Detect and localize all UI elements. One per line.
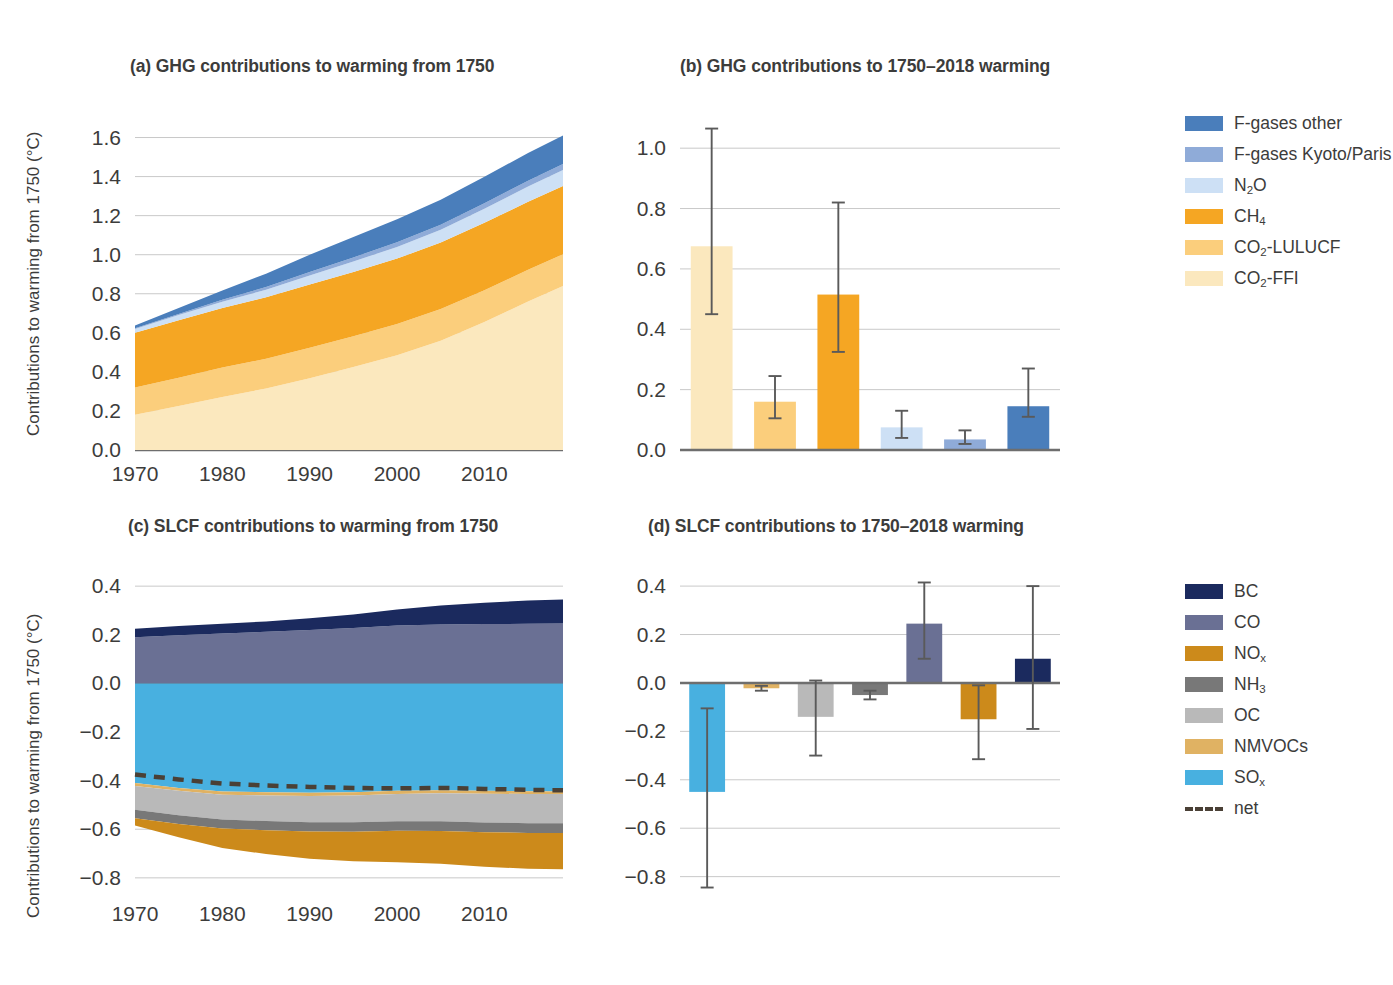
ghg-legend-label: CO2-FFI bbox=[1234, 268, 1299, 289]
panel-d-chart: 0.40.20.0−0.2−0.4−0.6−0.8 bbox=[620, 508, 1080, 978]
panel-d: (d) SLCF contributions to 1750–2018 warm… bbox=[620, 508, 1080, 978]
y-tick-label: 0.8 bbox=[92, 282, 121, 305]
x-tick-label: 1980 bbox=[199, 902, 246, 925]
y-tick-label: 0.4 bbox=[92, 574, 122, 597]
y-tick-label: 0.0 bbox=[637, 438, 666, 461]
y-tick-label: −0.2 bbox=[625, 719, 666, 742]
slcf-legend-swatch-icon bbox=[1185, 615, 1223, 630]
y-tick-label: −0.2 bbox=[80, 720, 121, 743]
ghg-legend-swatch-icon bbox=[1185, 178, 1223, 193]
panel-c: (c) SLCF contributions to warming from 1… bbox=[0, 508, 620, 978]
y-tick-label: −0.6 bbox=[80, 817, 121, 840]
slcf-legend-label: NH3 bbox=[1234, 674, 1266, 695]
slcf-legend-label: OC bbox=[1234, 705, 1260, 726]
y-tick-label: −0.8 bbox=[625, 865, 666, 888]
x-tick-label: 2010 bbox=[461, 902, 508, 925]
slcf-legend-item-4: OC bbox=[1185, 700, 1308, 731]
slcf-legend-swatch-icon bbox=[1185, 770, 1223, 785]
ghg-legend-item-3: CH4 bbox=[1185, 201, 1392, 232]
y-tick-label: 0.4 bbox=[637, 574, 667, 597]
y-tick-label: 0.4 bbox=[637, 317, 667, 340]
x-tick-label: 2000 bbox=[374, 902, 421, 925]
y-tick-label: 0.6 bbox=[92, 321, 121, 344]
ghg-legend-label: N2O bbox=[1234, 175, 1267, 196]
x-tick-label: 1990 bbox=[286, 902, 333, 925]
ghg-legend: F-gases otherF-gases Kyoto/ParisN2OCH4CO… bbox=[1185, 108, 1392, 294]
y-tick-label: 1.0 bbox=[92, 243, 121, 266]
y-tick-label: 0.8 bbox=[637, 197, 666, 220]
x-tick-label: 1990 bbox=[286, 462, 333, 485]
slcf-legend-item-2: NOx bbox=[1185, 638, 1308, 669]
slcf-legend-item-7: net bbox=[1185, 793, 1308, 824]
slcf-legend-item-6: SOx bbox=[1185, 762, 1308, 793]
panel-c-chart: 0.40.20.0−0.2−0.4−0.6−0.8197019801990200… bbox=[0, 508, 620, 978]
ghg-legend-label: CH4 bbox=[1234, 206, 1266, 227]
x-tick-label: 1970 bbox=[112, 462, 159, 485]
y-tick-label: 0.2 bbox=[92, 623, 121, 646]
panel-a-title: (a) GHG contributions to warming from 17… bbox=[130, 56, 494, 77]
panel-c-title: (c) SLCF contributions to warming from 1… bbox=[128, 516, 498, 537]
y-tick-label: 0.0 bbox=[92, 438, 121, 461]
slcf-legend-swatch-icon bbox=[1185, 807, 1223, 811]
slcf-legend-item-0: BC bbox=[1185, 576, 1308, 607]
x-tick-label: 1980 bbox=[199, 462, 246, 485]
ghg-legend-item-4: CO2-LULUCF bbox=[1185, 232, 1392, 263]
y-tick-label: 1.2 bbox=[92, 204, 121, 227]
panel-a-chart: 0.00.20.40.60.81.01.21.41.61970198019902… bbox=[0, 46, 620, 496]
slcf-legend: BCCONOxNH3OCNMVOCsSOxnet bbox=[1185, 576, 1308, 824]
ghg-legend-label: CO2-LULUCF bbox=[1234, 237, 1341, 258]
panel-b-chart: 0.00.20.40.60.81.0 bbox=[620, 46, 1080, 496]
slcf-legend-label: net bbox=[1234, 798, 1258, 819]
y-tick-label: −0.4 bbox=[80, 769, 122, 792]
slcf-legend-label: SOx bbox=[1234, 767, 1265, 788]
slcf-legend-label: NOx bbox=[1234, 643, 1266, 664]
y-tick-label: 0.2 bbox=[637, 623, 666, 646]
y-tick-label: 0.0 bbox=[637, 671, 666, 694]
slcf-legend-item-5: NMVOCs bbox=[1185, 731, 1308, 762]
x-tick-label: 1970 bbox=[112, 902, 159, 925]
ghg-legend-swatch-icon bbox=[1185, 147, 1223, 162]
slcf-legend-swatch-icon bbox=[1185, 677, 1223, 692]
slcf-legend-label: BC bbox=[1234, 581, 1258, 602]
panel-a-ylabel: Contributions to warming from 1750 (°C) bbox=[24, 132, 44, 436]
slcf-legend-swatch-icon bbox=[1185, 584, 1223, 599]
ghg-legend-item-2: N2O bbox=[1185, 170, 1392, 201]
ghg-legend-swatch-icon bbox=[1185, 209, 1223, 224]
y-tick-label: −0.6 bbox=[625, 816, 666, 839]
x-tick-label: 2010 bbox=[461, 462, 508, 485]
y-tick-label: −0.4 bbox=[625, 768, 667, 791]
area-SOx bbox=[135, 683, 563, 792]
y-tick-label: 1.6 bbox=[92, 126, 121, 149]
ghg-legend-swatch-icon bbox=[1185, 116, 1223, 131]
ghg-legend-swatch-icon bbox=[1185, 240, 1223, 255]
y-tick-label: 0.6 bbox=[637, 257, 666, 280]
slcf-legend-item-1: CO bbox=[1185, 607, 1308, 638]
slcf-legend-label: NMVOCs bbox=[1234, 736, 1308, 757]
slcf-legend-label: CO bbox=[1234, 612, 1260, 633]
y-tick-label: −0.8 bbox=[80, 866, 121, 889]
x-tick-label: 2000 bbox=[374, 462, 421, 485]
ghg-legend-swatch-icon bbox=[1185, 271, 1223, 286]
ghg-legend-label: F-gases Kyoto/Paris bbox=[1234, 144, 1392, 165]
ghg-legend-label: F-gases other bbox=[1234, 113, 1342, 134]
slcf-legend-swatch-icon bbox=[1185, 739, 1223, 754]
y-tick-label: 0.2 bbox=[637, 378, 666, 401]
y-tick-label: 1.4 bbox=[92, 165, 122, 188]
y-tick-label: 0.2 bbox=[92, 399, 121, 422]
ghg-legend-item-5: CO2-FFI bbox=[1185, 263, 1392, 294]
panel-d-title: (d) SLCF contributions to 1750–2018 warm… bbox=[648, 516, 1024, 537]
slcf-legend-swatch-icon bbox=[1185, 708, 1223, 723]
y-tick-label: 0.0 bbox=[92, 671, 121, 694]
panel-a: (a) GHG contributions to warming from 17… bbox=[0, 46, 620, 496]
slcf-legend-swatch-icon bbox=[1185, 646, 1223, 661]
panel-b: (b) GHG contributions to 1750–2018 warmi… bbox=[620, 46, 1080, 496]
panel-b-title: (b) GHG contributions to 1750–2018 warmi… bbox=[680, 56, 1050, 77]
y-tick-label: 0.4 bbox=[92, 360, 122, 383]
y-tick-label: 1.0 bbox=[637, 136, 666, 159]
slcf-legend-item-3: NH3 bbox=[1185, 669, 1308, 700]
panel-c-ylabel: Contributions to warming from 1750 (°C) bbox=[24, 614, 44, 918]
ghg-legend-item-1: F-gases Kyoto/Paris bbox=[1185, 139, 1392, 170]
ghg-legend-item-0: F-gases other bbox=[1185, 108, 1392, 139]
